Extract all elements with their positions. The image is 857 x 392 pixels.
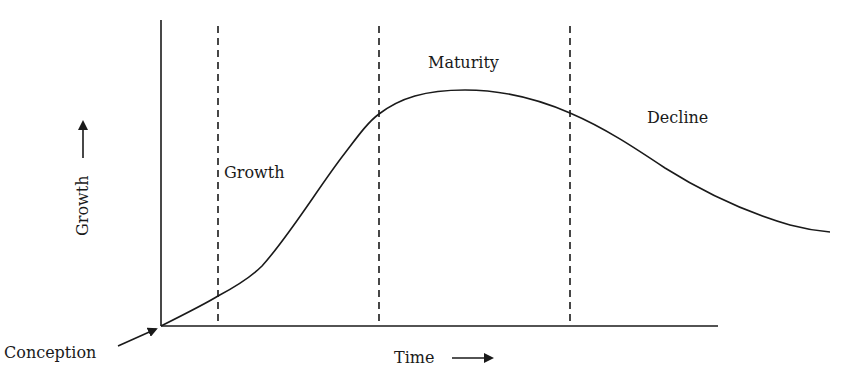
life-cycle-curve [161, 90, 830, 326]
y-axis-label: Growth [73, 176, 92, 237]
stage-label-decline: Decline [647, 108, 708, 127]
x-axis-label: Time [394, 348, 434, 367]
stage-label-growth: Growth [224, 163, 285, 182]
origin-arrow-icon [118, 329, 156, 346]
origin-label: Conception [4, 343, 96, 362]
life-cycle-diagram: Growth Maturity Decline Growth Time Conc… [0, 0, 857, 392]
stage-label-maturity: Maturity [428, 53, 499, 72]
